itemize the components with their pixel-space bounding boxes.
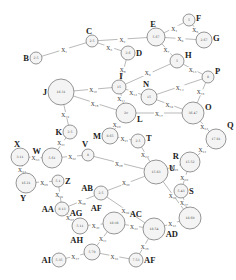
edge-o-q: X₂₃ bbox=[199, 121, 209, 131]
edge-h-p: X₁₃ bbox=[183, 64, 202, 74]
node-label: G bbox=[213, 33, 220, 43]
edge-label: X₂₈ bbox=[115, 161, 123, 167]
node-g: 2.67G bbox=[196, 32, 220, 48]
node-label: E bbox=[150, 19, 156, 29]
edge-label: X₃₄ bbox=[18, 167, 26, 173]
edge-s-ad: X₂₇ bbox=[179, 198, 189, 208]
node-j: 18.31J bbox=[43, 79, 74, 105]
edge-j-l: X₁₈ bbox=[73, 96, 116, 110]
node-value: 18.54 bbox=[149, 227, 158, 231]
edge-l-o: X₁₇ bbox=[136, 111, 182, 117]
edge-y-z: X₃₅ bbox=[36, 180, 52, 186]
node-m: 8.65M bbox=[93, 128, 118, 144]
node-value: 5 bbox=[188, 18, 190, 22]
edge-c-e: X₂ bbox=[98, 37, 147, 43]
edge-n-o: X₁₆ bbox=[157, 100, 183, 110]
edge-label: X₂₇ bbox=[180, 200, 188, 206]
node-label: H bbox=[185, 50, 192, 60]
node-z: 5.1Z bbox=[52, 175, 71, 187]
node-value: 5.67 bbox=[152, 35, 159, 39]
node-label: F bbox=[196, 13, 201, 23]
edge-j-i: X₁₀ bbox=[74, 87, 112, 93]
node-label: N bbox=[143, 79, 150, 89]
node-value: 5.11 bbox=[76, 224, 83, 228]
node-value: 5.1 bbox=[55, 179, 60, 183]
node-label: D bbox=[136, 48, 142, 58]
edge-r-s: X₂₉ bbox=[179, 172, 189, 185]
node-label: P bbox=[215, 66, 220, 76]
node-n: 15N bbox=[141, 79, 157, 105]
graph-svg: X₁X₂X₃X₄X₅X₆X₇X₈X₉X₁₀X₁₁X₁₂X₁₃X₁₄X₁₅X₁₆X… bbox=[0, 0, 236, 280]
node-label: AI bbox=[42, 255, 52, 265]
edge-b-c: X₁ bbox=[42, 43, 87, 57]
edge-label: X₉ bbox=[145, 70, 151, 76]
edge-label: X₂₁ bbox=[120, 136, 128, 142]
node-label: X bbox=[14, 139, 21, 149]
edge-label: X₂₄ bbox=[198, 147, 206, 153]
edge-z-aa: X₃₆ bbox=[54, 187, 64, 202]
edge-label: X₂₉ bbox=[180, 175, 188, 181]
node-label: W bbox=[33, 146, 42, 156]
edge-j-k: X₁₉ bbox=[60, 105, 70, 125]
node-value: 7.53 bbox=[132, 258, 139, 262]
node-value: 2.6 bbox=[125, 51, 130, 55]
node-q: 17.81Q bbox=[206, 120, 234, 149]
node-value: 8 bbox=[207, 75, 209, 79]
edge-label: X₁₂ bbox=[129, 90, 137, 96]
edge-label: X₄₇ bbox=[71, 254, 79, 260]
edge-label: X₃₃ bbox=[32, 155, 40, 161]
edge-label: X₃₆ bbox=[55, 192, 63, 198]
edge-label: X₁₄ bbox=[176, 85, 184, 91]
edge-ah-ae: X₄₁ bbox=[97, 232, 108, 246]
edge-af-ac: X₄₅ bbox=[140, 239, 150, 254]
node-value: 36.47 bbox=[188, 111, 197, 115]
node-ag: 5.11AG bbox=[70, 208, 88, 234]
node-ab: 2.5AB bbox=[81, 183, 108, 200]
edge-label: X₁₅ bbox=[197, 89, 205, 95]
edge-label: X₄₀ bbox=[92, 223, 100, 229]
node-label: AA bbox=[42, 204, 55, 214]
node-x: 3.11X bbox=[11, 139, 29, 166]
node-label: Y bbox=[20, 193, 26, 203]
node-label: AG bbox=[70, 208, 83, 218]
node-p: 8P bbox=[202, 66, 220, 83]
edge-label: X₁₇ bbox=[155, 111, 163, 117]
edge-l-m: X₂₀ bbox=[112, 121, 122, 129]
node-value: 18.69 bbox=[185, 216, 194, 220]
edge-ag-ae: X₄₀ bbox=[88, 223, 103, 229]
edge-label: X₃₀ bbox=[122, 180, 130, 186]
node-value: 8 bbox=[87, 153, 89, 157]
edge-label: X₄₁ bbox=[99, 236, 107, 242]
edge-label: X₁₈ bbox=[91, 101, 99, 107]
node-value: 15.83 bbox=[151, 170, 160, 174]
node-label: AC bbox=[130, 209, 142, 219]
edge-x-w: X₃₃ bbox=[29, 155, 42, 161]
node-value: 5 bbox=[176, 59, 178, 63]
node-value: 2.5 bbox=[89, 39, 94, 43]
node-value: 18.31 bbox=[56, 90, 65, 94]
node-aa: 8.13AA bbox=[42, 202, 69, 216]
node-l: 20L bbox=[116, 103, 143, 124]
edge-label: X₁₃ bbox=[189, 67, 197, 73]
node-label: T bbox=[146, 133, 152, 143]
node-value: 5.79 bbox=[88, 250, 95, 254]
edge-t-u: X₂₂ bbox=[140, 147, 150, 162]
node-value: 16.21 bbox=[21, 181, 30, 185]
node-label: AF bbox=[144, 255, 155, 265]
edge-label: X₃₅ bbox=[40, 180, 48, 186]
edge-c-d: X₃ bbox=[98, 43, 122, 51]
node-af: 7.53AF bbox=[129, 253, 155, 267]
node-label: K bbox=[55, 127, 62, 137]
node-s: 5.43S bbox=[174, 184, 194, 198]
node-v: 8V bbox=[82, 139, 94, 161]
node-c: 2.5C bbox=[86, 26, 98, 47]
node-label: AF bbox=[91, 203, 102, 213]
edge-ae-ac: X₄₄ bbox=[125, 224, 143, 230]
node-value: 18.08 bbox=[109, 221, 118, 225]
node-i: 15I bbox=[112, 71, 126, 94]
node-label: AH bbox=[70, 235, 83, 245]
node-value: 3.11 bbox=[16, 155, 23, 159]
edge-label: X₁₁ bbox=[117, 96, 125, 102]
edge-label: X₂ bbox=[120, 37, 126, 43]
edge-i-n: X₁₂ bbox=[126, 89, 142, 95]
